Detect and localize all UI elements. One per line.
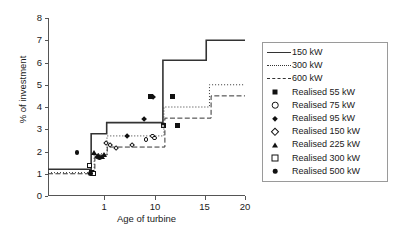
legend-item: Realised 75 kW [266,99,383,112]
data-point-realised-95-kw [150,94,156,100]
y-tick-mark [45,196,49,197]
x-tick-label: 10 [145,202,165,212]
line-sample [267,78,291,79]
legend-item: Realised 225 kW [266,138,383,151]
legend-item: Realised 55 kW [266,86,383,99]
legend-item-label: 600 kW [292,74,323,83]
y-tick-label: 5 [26,80,42,90]
legend-item-label: Realised 55 kW [292,88,355,97]
y-tick-label: 7 [26,35,42,45]
legend-line-solid-icon [266,46,292,59]
data-point-realised-55-kw [175,123,180,128]
legend-item-label: Realised 95 kW [292,114,355,123]
data-point-realised-75-kw [152,136,157,141]
marker-sample [272,102,279,109]
legend-item: Realised 95 kW [266,112,383,125]
x-axis-label: Age of turbine [48,213,245,224]
marker-sample [273,90,278,95]
y-tick-label: 3 [26,124,42,134]
legend-filled-circle-icon [266,165,292,178]
chart-figure: % of investment 012345678 1101520 Age of… [0,0,396,242]
data-point-realised-500-kw [88,171,93,176]
legend-item: Realised 300 kW [266,152,383,165]
data-point-realised-150-kw [114,145,120,151]
legend-line-dashed-icon [266,72,292,85]
legend-item-label: Realised 225 kW [292,140,360,149]
legend-item-label: Realised 75 kW [292,101,355,110]
legend-item: 300 kW [266,59,383,72]
legend-item: 150 kW [266,46,383,59]
y-tick-label: 4 [26,102,42,112]
y-tick-label: 6 [26,58,42,68]
x-tick-label: 20 [235,202,255,212]
x-tick-mark [155,196,156,200]
line-sample [267,65,291,66]
legend-line-dotted-icon [266,59,292,72]
chart-legend: 150 kW300 kW600 kWRealised 55 kWRealised… [262,42,388,182]
marker-sample [272,155,279,162]
legend-item-label: Realised 500 kW [292,167,360,176]
scatter-markers [48,18,245,196]
marker-sample [272,142,278,147]
x-tick-label: 15 [195,202,215,212]
legend-item: Realised 150 kW [266,125,383,138]
legend-filled-square-icon [266,86,292,99]
data-point-realised-75-kw [144,137,149,142]
legend-item-label: 300 kW [292,61,323,70]
y-tick-label: 0 [26,191,42,201]
data-point-realised-95-kw [124,133,130,139]
x-tick-mark [104,196,105,200]
data-point-realised-55-kw [170,94,175,99]
x-tick-mark [245,196,246,200]
data-point-realised-500-kw [97,155,102,160]
legend-item-label: Realised 300 kW [292,154,360,163]
line-sample [267,52,291,53]
legend-item-label: Realised 150 kW [292,127,360,136]
legend-open-diamond-icon [266,125,292,138]
x-tick-mark [205,196,206,200]
legend-item: 600 kW [266,72,383,85]
marker-sample [273,169,278,174]
data-point-realised-95-kw [141,116,147,122]
data-point-realised-500-kw [75,150,80,155]
legend-filled-triangle-icon [266,138,292,151]
x-tick-label: 1 [94,202,114,212]
marker-sample [272,116,278,122]
y-tick-label: 2 [26,147,42,157]
y-tick-label: 8 [26,13,42,23]
marker-sample [271,127,280,136]
data-point-realised-150-kw [129,142,135,148]
legend-filled-diamond-icon [266,112,292,125]
data-point-realised-300-kw [87,163,92,168]
y-tick-label: 1 [26,169,42,179]
legend-item: Realised 500 kW [266,165,383,178]
legend-item-label: 150 kW [292,48,323,57]
legend-open-square-icon [266,152,292,165]
legend-open-circle-icon [266,99,292,112]
